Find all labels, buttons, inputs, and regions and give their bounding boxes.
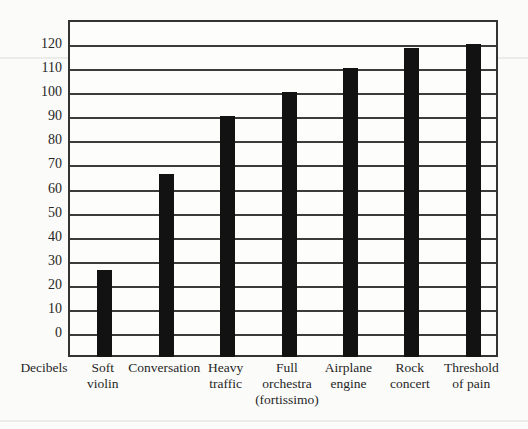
bar-airplane-engine: [343, 68, 358, 357]
scan-artifact-line-bottom: [0, 420, 528, 422]
y-tick-label-50: 50: [22, 205, 62, 221]
y-tick-label-60: 60: [22, 181, 62, 197]
bar-rock-concert: [404, 48, 419, 357]
y-tick-label-30: 30: [22, 253, 62, 269]
bar-heavy-traffic: [220, 116, 235, 357]
bar-conversation: [159, 174, 174, 357]
plot-area: [68, 20, 498, 357]
y-tick-label-70: 70: [22, 156, 62, 172]
y-tick-label-100: 100: [22, 84, 62, 100]
y-tick-label-10: 10: [22, 301, 62, 317]
y-tick-label-0: 0: [22, 325, 62, 341]
bar-soft-violin: [97, 270, 112, 357]
gridline-110: [70, 69, 496, 71]
y-tick-label-80: 80: [22, 132, 62, 148]
y-tick-label-90: 90: [22, 108, 62, 124]
gridline-120: [70, 45, 496, 47]
category-label-line: Threshold: [423, 360, 519, 376]
y-tick-label-20: 20: [22, 277, 62, 293]
category-label-line: violin: [55, 376, 151, 392]
decibel-bar-chart: 0102030405060708090100110120 SoftviolinC…: [0, 0, 528, 429]
category-label-line: (fortissimo): [239, 392, 335, 408]
category-label-line: of pain: [423, 376, 519, 392]
y-tick-label-40: 40: [22, 229, 62, 245]
y-axis-unit-label: Decibels: [16, 360, 72, 376]
y-tick-label-120: 120: [22, 36, 62, 52]
bar-full-orchestra-fortissimo-: [282, 92, 297, 357]
bar-threshold-of-pain: [466, 44, 481, 357]
y-tick-label-110: 110: [22, 60, 62, 76]
category-label-threshold-of-pain: Thresholdof pain: [423, 360, 519, 392]
